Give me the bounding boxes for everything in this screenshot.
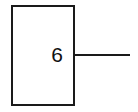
connector-line xyxy=(73,54,130,56)
node-label: 6 xyxy=(49,44,65,66)
diagram-node-box xyxy=(11,5,75,106)
